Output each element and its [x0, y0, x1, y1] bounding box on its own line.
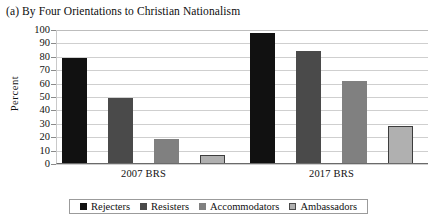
y-axis-tick-label: 60 [4, 79, 50, 89]
legend-label: Ambassadors [300, 201, 357, 212]
chart-legend: RejectersResistersAccommodatorsAmbassado… [69, 199, 368, 214]
y-axis-tick-labels: 0102030405060708090100 [0, 30, 50, 164]
legend-label: Resisters [151, 201, 189, 212]
plot-area [56, 30, 428, 164]
y-axis-tick-label: 70 [4, 65, 50, 75]
y-axis-tick-label: 40 [4, 105, 50, 115]
y-axis-tick-label: 80 [4, 52, 50, 62]
legend-item[interactable]: Rejecters [80, 201, 130, 212]
plot-frame [56, 30, 428, 164]
legend-item[interactable]: Accommodators [199, 201, 279, 212]
legend-label: Accommodators [210, 201, 279, 212]
x-axis-category-label: 2017 BRS [287, 168, 377, 179]
y-axis-tick-mark [51, 30, 56, 31]
chart-figure: (a) By Four Orientations to Christian Na… [0, 0, 441, 223]
legend-label: Rejecters [91, 201, 130, 212]
y-axis-tick-label: 100 [4, 25, 50, 35]
x-axis-category-label: 2007 BRS [99, 168, 189, 179]
y-axis-tick-mark [51, 151, 56, 152]
y-axis-tick-label: 0 [4, 159, 50, 169]
y-axis-tick-mark [51, 43, 56, 44]
legend-swatch-icon [140, 203, 147, 210]
y-axis-tick-mark [51, 97, 56, 98]
legend-item[interactable]: Ambassadors [289, 201, 357, 212]
legend-item[interactable]: Resisters [140, 201, 189, 212]
legend-swatch-icon [199, 203, 206, 210]
y-axis-tick-mark [51, 164, 56, 165]
y-axis-tick-label: 50 [4, 92, 50, 102]
y-axis-tick-mark [51, 70, 56, 71]
y-axis-tick-label: 10 [4, 146, 50, 156]
legend-swatch-icon [80, 203, 87, 210]
gridline [56, 164, 428, 165]
y-axis-tick-mark [51, 137, 56, 138]
y-axis-tick-mark [51, 57, 56, 58]
y-axis-tick-label: 90 [4, 38, 50, 48]
y-axis-tick-mark [51, 124, 56, 125]
chart-title: (a) By Four Orientations to Christian Na… [6, 5, 240, 17]
y-axis-tick-label: 30 [4, 119, 50, 129]
y-axis-tick-label: 20 [4, 132, 50, 142]
y-axis-tick-mark [51, 110, 56, 111]
legend-swatch-icon [289, 203, 296, 210]
y-axis-tick-mark [51, 84, 56, 85]
